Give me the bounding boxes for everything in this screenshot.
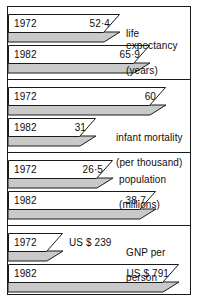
bar-row-1972: 1972 52·4 (8, 14, 120, 42)
bar-value-label: 31 (36, 121, 86, 134)
bar-year-label: 1972 (14, 90, 37, 103)
panel-population: 1972 26·5 1982 38·7 population (millions… (8, 153, 190, 225)
bar-year-label: 1972 (14, 163, 37, 176)
bar-year-label: 1982 (14, 267, 37, 280)
bar-year-label: 1982 (14, 48, 37, 61)
panel-gnp-per-person: 1972 US $ 239 1982 US $ 791 GNP per pers… (8, 226, 190, 296)
chart-frame: 1972 52·4 1982 65·9 life expectancy (yea… (7, 6, 191, 295)
bar-value-label: 26·5 (51, 163, 103, 176)
bar-year-label: 1972 (14, 17, 37, 30)
bar-row-1972: 1972 60 (8, 87, 166, 115)
bar-row-1972: 1972 US $ 239 (8, 233, 63, 261)
bar-value-label: 60 (104, 90, 156, 103)
bar-value-label: 52·4 (58, 17, 110, 30)
panel-life-expectancy: 1972 52·4 1982 65·9 life expectancy (yea… (8, 7, 190, 79)
caption-line-1: infant mortality (116, 132, 183, 145)
bar-year-label: 1972 (14, 236, 37, 249)
bar-row-1972: 1972 26·5 (8, 160, 113, 188)
panel-caption-gnp-per-person: GNP per person (126, 234, 165, 297)
panel-caption-population: population (millions) (119, 161, 166, 224)
caption-line-2: (millions) (119, 199, 166, 212)
bar-row-1982: 1982 31 (8, 118, 96, 146)
caption-line-2: (years) (126, 65, 190, 78)
panel-infant-mortality: 1972 60 1982 31 infant mortality (per th… (8, 80, 190, 152)
caption-line-1: life expectancy (126, 28, 190, 53)
caption-line-2: person (126, 272, 165, 285)
bar-year-label: 1982 (14, 121, 37, 134)
caption-line-1: population (119, 174, 166, 187)
bar-year-label: 1982 (14, 194, 37, 207)
caption-line-1: GNP per (126, 247, 165, 260)
